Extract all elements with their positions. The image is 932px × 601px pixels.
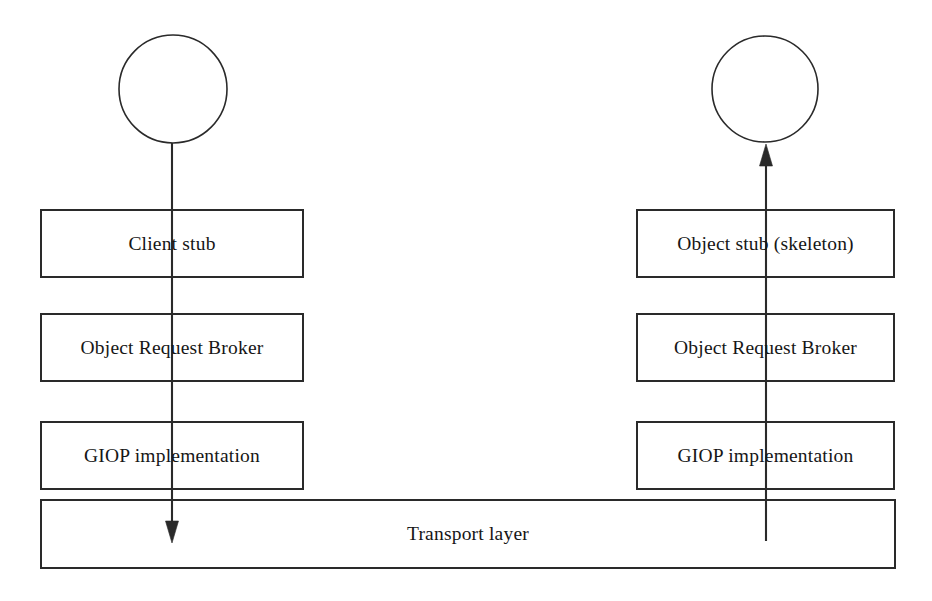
diagram-vector-layer <box>0 0 932 601</box>
actors <box>119 35 818 143</box>
diagram-canvas: Client stub Object Request Broker GIOP i… <box>0 0 932 601</box>
client-request-arrowhead <box>166 521 179 543</box>
client-actor-icon <box>119 35 227 143</box>
server-reply-arrowhead <box>760 144 773 166</box>
flow-lines <box>166 143 773 543</box>
object-actor-icon <box>712 36 818 142</box>
